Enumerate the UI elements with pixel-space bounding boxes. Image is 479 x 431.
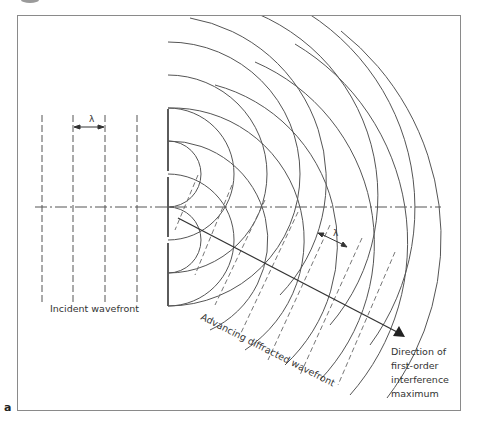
diffraction-diagram: λ <box>0 0 479 431</box>
wavelength-arrow-incident <box>74 125 104 129</box>
wavefront-arcs-source-2 <box>168 31 441 398</box>
panel-label: a <box>4 401 11 414</box>
wavelength-label-diffracted: λ <box>333 228 339 238</box>
incident-wavefronts <box>42 115 137 302</box>
wavelength-label-incident: λ <box>89 114 95 124</box>
direction-label-line-1: Direction of <box>391 346 447 357</box>
direction-label-line-4: maximum <box>391 388 439 399</box>
direction-label-line-3: interference <box>391 374 449 385</box>
advancing-wavefront-label: Advancing diffracted wavefront <box>199 311 337 389</box>
direction-label-line-2: first-order <box>391 360 439 371</box>
header-fragment <box>21 0 39 3</box>
incident-wavefront-label: Incident wavefront <box>50 303 139 314</box>
wavefront-arcs-source-1 <box>168 0 415 345</box>
